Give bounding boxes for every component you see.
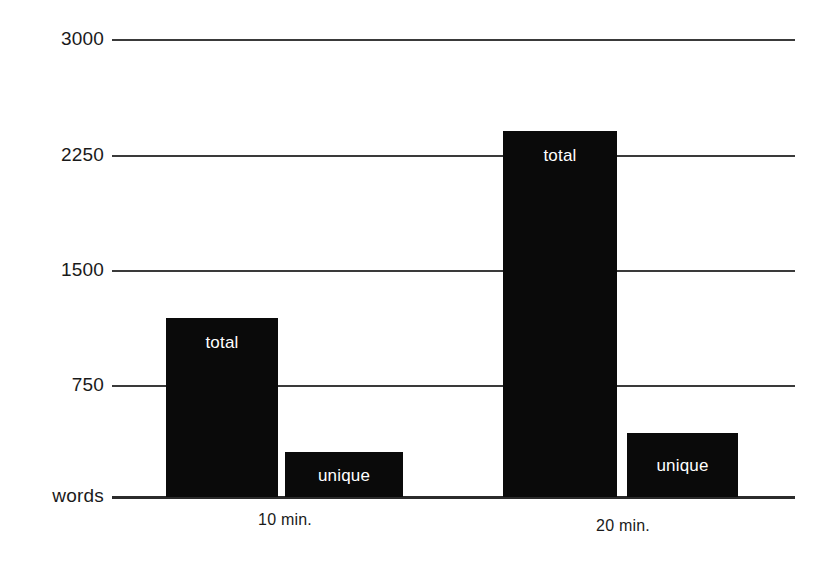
bar-label-10min-total: total xyxy=(166,334,278,351)
bar-10min-total: total xyxy=(166,318,278,497)
xtick-label-10min: 10 min. xyxy=(205,512,365,528)
bar-20min-unique: unique xyxy=(627,433,738,497)
ytick-label-2250: 2250 xyxy=(4,145,104,164)
ytick-label-750: 750 xyxy=(4,375,104,394)
ytick-label-1500: 1500 xyxy=(4,260,104,279)
gridline-2250 xyxy=(112,155,795,157)
ytick-label-3000: 3000 xyxy=(4,29,104,48)
bar-label-20min-unique: unique xyxy=(627,457,738,474)
bar-label-10min-unique: unique xyxy=(285,466,403,483)
gridline-3000 xyxy=(112,39,795,41)
ytick-label-words: words xyxy=(4,486,104,505)
bar-10min-unique: unique xyxy=(285,452,403,497)
gridline-1500 xyxy=(112,270,795,272)
bar-20min-total: total xyxy=(503,131,617,497)
bar-label-20min-total: total xyxy=(503,147,617,164)
xtick-label-20min: 20 min. xyxy=(543,518,703,534)
bar-chart: 3000 2250 1500 750 words total unique 10… xyxy=(0,0,833,562)
